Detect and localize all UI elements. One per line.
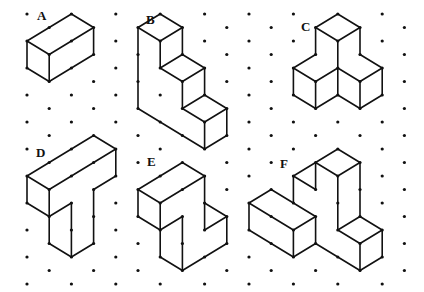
grid-dot xyxy=(225,53,228,56)
grid-dot xyxy=(292,12,295,15)
grid-dot xyxy=(92,107,95,110)
grid-dot xyxy=(314,134,317,137)
grid-dot xyxy=(270,134,273,137)
grid-dot xyxy=(292,147,295,150)
edge xyxy=(94,136,116,150)
grid-dot xyxy=(247,93,250,96)
grid-dot xyxy=(114,255,117,258)
edge xyxy=(360,230,382,244)
edge xyxy=(71,244,93,258)
edge xyxy=(182,163,204,177)
grid-dot xyxy=(292,39,295,42)
solid-e: E xyxy=(138,154,227,271)
shape-label: C xyxy=(301,19,310,34)
grid-dot xyxy=(403,134,406,137)
grid-dot xyxy=(336,282,339,285)
grid-dot xyxy=(270,107,273,110)
grid-dot xyxy=(92,80,95,83)
grid-dot xyxy=(70,120,73,123)
edge xyxy=(293,217,315,231)
grid-dot xyxy=(381,282,384,285)
grid-dots xyxy=(25,12,406,285)
edge xyxy=(316,149,338,163)
grid-dot xyxy=(159,147,162,150)
grid-dot xyxy=(70,93,73,96)
edge xyxy=(138,109,205,150)
edge xyxy=(49,149,116,190)
edge xyxy=(49,28,93,55)
edge xyxy=(338,217,360,231)
edge xyxy=(360,217,382,231)
edge xyxy=(360,68,382,82)
edge xyxy=(316,244,360,271)
edge xyxy=(94,176,116,190)
grid-dot xyxy=(203,12,206,15)
edge xyxy=(27,41,49,55)
edge xyxy=(182,109,204,123)
grid-dot xyxy=(159,282,162,285)
grid-dot xyxy=(25,255,28,258)
edge xyxy=(71,14,93,28)
shape-label: B xyxy=(146,12,155,27)
grid-dot xyxy=(159,93,162,96)
shape-label: A xyxy=(37,8,47,23)
grid-dot xyxy=(270,161,273,164)
grid-dot xyxy=(48,107,51,110)
edge xyxy=(316,163,338,177)
grid-dot xyxy=(381,201,384,204)
grid-dot xyxy=(381,12,384,15)
grid-dot xyxy=(403,80,406,83)
grid-dot xyxy=(114,201,117,204)
grid-dot xyxy=(225,188,228,191)
edge xyxy=(205,109,227,123)
edge xyxy=(160,14,182,28)
grid-dot xyxy=(114,282,117,285)
edge xyxy=(293,244,315,258)
grid-dot xyxy=(25,147,28,150)
grid-dot xyxy=(114,228,117,231)
grid-dot xyxy=(247,282,250,285)
grid-dot xyxy=(247,147,250,150)
edge xyxy=(205,203,227,217)
shape-label: D xyxy=(36,145,45,160)
grid-dot xyxy=(270,80,273,83)
edge xyxy=(49,203,71,217)
grid-dot xyxy=(292,282,295,285)
grid-dot xyxy=(48,134,51,137)
edge xyxy=(205,95,227,109)
edge xyxy=(182,95,204,109)
grid-dot xyxy=(403,215,406,218)
shape-label: F xyxy=(280,156,288,171)
grid-dot xyxy=(314,269,317,272)
edge xyxy=(338,149,360,163)
grid-dot xyxy=(381,39,384,42)
edge xyxy=(249,203,293,230)
edge xyxy=(49,244,71,258)
edge xyxy=(360,55,382,69)
edge xyxy=(293,68,315,82)
edge xyxy=(316,14,338,28)
grid-dot xyxy=(270,53,273,56)
grid-dot xyxy=(403,242,406,245)
edge xyxy=(27,14,71,41)
grid-dot xyxy=(25,120,28,123)
grid-dot xyxy=(114,93,117,96)
edge xyxy=(182,244,226,271)
edge xyxy=(138,163,182,190)
edge xyxy=(338,68,360,82)
grid-dot xyxy=(114,66,117,69)
grid-dot xyxy=(247,120,250,123)
edge xyxy=(338,230,360,244)
edge xyxy=(338,14,360,28)
edge xyxy=(27,68,49,82)
grid-dot xyxy=(136,242,139,245)
edge xyxy=(249,190,271,204)
grid-dot xyxy=(114,12,117,15)
grid-dot xyxy=(225,26,228,29)
grid-dot xyxy=(203,39,206,42)
edge xyxy=(293,55,315,69)
edge xyxy=(27,203,49,217)
edge xyxy=(138,28,160,42)
grid-dot xyxy=(203,282,206,285)
drawing-surface: ABCDEF xyxy=(0,0,424,292)
